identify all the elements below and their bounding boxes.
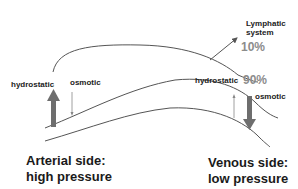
arterial-hydrostatic-arrow-icon: [47, 89, 60, 127]
venous-side-caption: Venous side: low pressure: [208, 155, 288, 187]
arterial-caption-line1: Arterial side:: [26, 153, 112, 169]
venous-caption-line2: low pressure: [208, 171, 288, 187]
venous-hydrostatic-label: hydrostatic: [195, 76, 238, 85]
lymphatic-system-label: Lymphatic system: [246, 19, 286, 37]
venous-caption-line1: Venous side:: [208, 155, 288, 171]
arterial-osmotic-arrow-icon: [71, 92, 74, 116]
lymphatic-label-line1: Lymphatic: [246, 19, 286, 28]
venous-osmotic-label: osmotic: [255, 92, 286, 101]
lymphatic-label-line2: system: [246, 28, 286, 37]
lymphatic-arrow: [210, 38, 237, 60]
arterial-hydrostatic-label: hydrostatic: [11, 80, 54, 89]
venous-hydrostatic-arrow-icon: [233, 94, 236, 118]
arterial-side-caption: Arterial side: high pressure: [26, 153, 112, 185]
arterial-caption-line2: high pressure: [26, 169, 112, 185]
lymph-percentage: 10%: [241, 40, 265, 54]
arterial-osmotic-label: osmotic: [70, 78, 101, 87]
venous-percentage: 90%: [243, 73, 267, 87]
